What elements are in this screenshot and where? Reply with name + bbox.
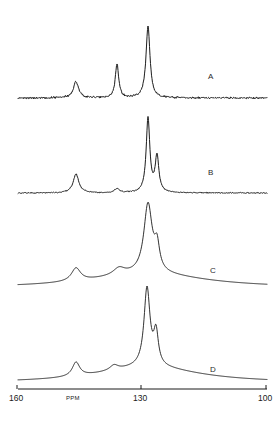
trace-label-c: C [210, 266, 216, 275]
spectrum-trace-a [18, 26, 267, 99]
trace-label-d: D [210, 365, 216, 374]
spectrum-trace-d [18, 286, 267, 380]
axis-tick-label-130: 130 [133, 393, 147, 403]
spectrum-trace-b [18, 116, 267, 193]
nmr-spectra-figure: A B C D 160 130 100 PPM [0, 0, 278, 421]
trace-label-a: A [208, 72, 214, 81]
trace-label-b: B [208, 168, 214, 177]
axis-unit-label-ppm: PPM [66, 395, 80, 401]
axis-tick-label-100: 100 [258, 393, 272, 403]
spectrum-trace-c [18, 202, 267, 284]
traces-group [18, 26, 267, 380]
axis-tick-label-160: 160 [9, 393, 23, 403]
spectra-plot-svg [0, 0, 278, 421]
axis-group [17, 385, 267, 389]
